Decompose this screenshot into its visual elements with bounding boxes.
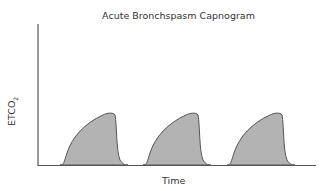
waveform-cycle-1: [60, 113, 128, 165]
waveform-cycle-2: [143, 113, 211, 165]
capnogram-plot: [0, 0, 327, 191]
waveform-series: [60, 113, 295, 165]
waveform-cycle-3: [227, 113, 295, 165]
